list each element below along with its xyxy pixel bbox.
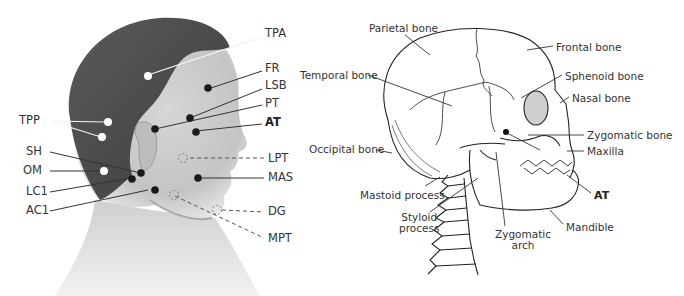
- label-lpt: LPT: [268, 153, 288, 165]
- label-fr: FR: [265, 63, 280, 75]
- label-om: OM: [23, 165, 42, 177]
- anatomy-figure: TPA FR LSB PT AT TPP SH OM LPT MAS LC1 A…: [0, 0, 684, 296]
- label-styloid-process: Styloid process: [399, 212, 439, 234]
- label-tpp: TPP: [19, 115, 40, 127]
- label-zygomatic-arch: Zygomatic arch: [495, 229, 551, 251]
- label-mpt: MPT: [268, 233, 292, 245]
- label-ac1: AC1: [26, 205, 49, 217]
- label-occipital-bone: Occipital bone: [309, 144, 384, 155]
- label-zygomatic-bone: Zygomatic bone: [587, 130, 673, 141]
- label-parietal-bone: Parietal bone: [369, 23, 438, 34]
- label-pt: PT: [265, 98, 279, 110]
- label-sphenoid-bone: Sphenoid bone: [565, 71, 644, 82]
- label-maxilla: Maxilla: [587, 146, 624, 157]
- label-tpa: TPA: [265, 28, 286, 40]
- label-at: AT: [265, 117, 281, 129]
- label-sh: SH: [26, 146, 42, 158]
- label-nasal-bone: Nasal bone: [572, 93, 631, 104]
- label-mandible: Mandible: [566, 222, 614, 233]
- label-temporal-bone: Temporal bone: [300, 70, 378, 81]
- label-mas: MAS: [268, 172, 293, 184]
- label-lsb: LSB: [265, 80, 287, 92]
- label-mastoid-process: Mastoid process: [360, 190, 445, 201]
- label-frontal-bone: Frontal bone: [556, 42, 621, 53]
- label-lc1: LC1: [26, 186, 48, 198]
- label-skull-at: AT: [594, 190, 609, 202]
- label-dg: DG: [268, 206, 286, 218]
